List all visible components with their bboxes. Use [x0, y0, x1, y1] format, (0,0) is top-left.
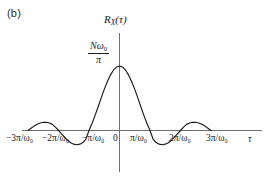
xtick-label-neg2pi: −2π/ω₀ — [42, 134, 69, 144]
y-axis-label-base: R — [104, 13, 111, 25]
y-axis-label-argument: (τ) — [115, 13, 126, 25]
xtick-label-3pi: 3π/ω₀ — [206, 134, 228, 144]
xtick-label-2pi: 2π/ω₀ — [169, 134, 191, 144]
autocorrelation-plot — [0, 0, 270, 177]
xtick-label-negpi: −π/ω₀ — [82, 134, 104, 144]
x-axis-label: τ — [248, 134, 252, 144]
peak-value-numerator: Nω0 — [88, 41, 109, 54]
xtick-label-pi: π/ω₀ — [130, 134, 147, 144]
y-axis-label: RX(τ) — [104, 14, 127, 27]
peak-value-denominator: π — [88, 54, 109, 65]
peak-value-omega-subscript: 0 — [104, 45, 107, 52]
figure-panel-b: (b) RX(τ) Nω0 π −3π/ω₀ −2π/ω₀ −π/ω₀ 0 π/… — [0, 0, 270, 177]
peak-value-omega: ω — [97, 40, 104, 51]
peak-value-label: Nω0 π — [88, 41, 109, 65]
xtick-label-zero: 0 — [113, 134, 118, 144]
peak-value-n: N — [90, 40, 97, 51]
xtick-label-neg3pi: −3π/ω₀ — [6, 134, 33, 144]
